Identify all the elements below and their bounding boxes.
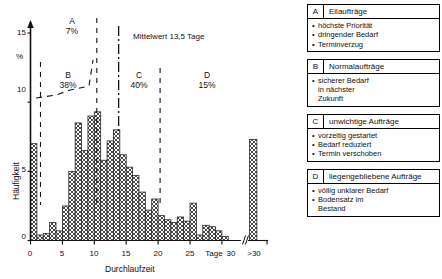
segment-d-share: 15%: [187, 80, 227, 90]
list-item: •Bedarf reduziert: [312, 140, 436, 149]
legend-box-c-key: C: [308, 115, 324, 128]
list-item: •höchste Priorität: [312, 21, 436, 30]
histogram-chart: 15 10 5 0 % Häufigkeit 0 5 10 15 20 25 T…: [0, 0, 305, 279]
y-tick-0: 0: [10, 233, 26, 241]
y-tick-15: 15: [10, 29, 26, 37]
x-tick-30: 30: [224, 250, 238, 258]
histogram-bar: [222, 236, 228, 240]
legend-box-a: A Eilaufträge •höchste Priorität •dringe…: [307, 4, 440, 52]
histogram-bar: [209, 227, 215, 241]
list-item-text: Bestand: [318, 204, 346, 213]
legend-box-d-body: •völlig unklarer Bedarf •Bodensatz im Be…: [308, 184, 439, 216]
histogram-bar: [56, 231, 62, 241]
list-item-continuation: in nächster: [312, 85, 436, 94]
histogram-bar: [37, 235, 43, 241]
histogram-bar: [69, 171, 75, 240]
list-item-text: Bedarf reduziert: [318, 140, 371, 149]
histogram-bar: [50, 223, 56, 241]
mean-value-label: Mittelwert 13,5 Tage: [133, 33, 204, 41]
histogram-bar: [171, 223, 177, 241]
list-item-text: sicherer Bedarf: [318, 76, 369, 85]
list-item-text: Termin verschoben: [318, 149, 381, 158]
histogram-bar: [139, 192, 145, 240]
list-item-continuation: Zukunft: [312, 94, 436, 103]
histogram-bar: [196, 235, 202, 241]
histogram-bar-overflow: [250, 140, 257, 241]
segment-label-c: C 40%: [119, 70, 159, 90]
histogram-bar: [101, 160, 107, 240]
segment-c-letter: C: [119, 70, 159, 80]
histogram-bar: [113, 130, 119, 241]
y-axis-title: Häufigkeit: [11, 162, 21, 200]
histogram-bar: [177, 217, 183, 241]
list-item-text: höchste Priorität: [318, 21, 372, 30]
histogram-bar: [107, 141, 113, 241]
legend-box-d-key: D: [308, 170, 324, 183]
histogram-bar: [145, 210, 151, 240]
list-item-text: Terminverzug: [318, 40, 363, 49]
legend-box-d-title: liegengebliebene Aufträge: [324, 170, 439, 183]
list-item-text: völlig unklarer Bedarf: [318, 186, 388, 195]
x-tick-overflow: >30: [243, 250, 265, 258]
list-item-text: vorzeitig gestartet: [318, 131, 377, 140]
histogram-bar: [184, 221, 190, 240]
histogram-bar: [164, 220, 170, 241]
histogram-bar: [120, 155, 126, 241]
histogram-bar: [133, 175, 139, 240]
y-unit-percent: %: [16, 52, 23, 61]
histogram-bar: [190, 203, 196, 240]
histogram-bar: [94, 112, 100, 241]
x-tick-0: 0: [24, 250, 36, 258]
segment-label-b: B 38%: [48, 70, 88, 90]
list-item-continuation: Bestand: [312, 204, 436, 213]
x-tick-10: 10: [87, 250, 101, 258]
x-tick-25: 25: [183, 250, 197, 258]
list-item: •Bodensatz im: [312, 195, 436, 204]
figure-root: 15 10 5 0 % Häufigkeit 0 5 10 15 20 25 T…: [0, 0, 442, 279]
list-item: •vorzeitig gestartet: [312, 131, 436, 140]
list-item-text: dringender Bedarf: [318, 30, 378, 39]
segment-b-letter: B: [48, 70, 88, 80]
segment-c-share: 40%: [119, 80, 159, 90]
legend-box-a-header: A Eilaufträge: [308, 5, 439, 19]
list-item: •völlig unklarer Bedarf: [312, 186, 436, 195]
legend-box-a-key: A: [308, 5, 324, 18]
histogram-bar: [126, 167, 132, 240]
segment-a-share: 7%: [52, 26, 92, 36]
legend-box-a-title: Eilaufträge: [324, 5, 439, 18]
legend-box-c-body: •vorzeitig gestartet •Bedarf reduziert •…: [308, 129, 439, 161]
segment-label-a: A 7%: [52, 16, 92, 36]
y-tick-10: 10: [10, 86, 26, 94]
legend-box-b-title: Normalaufträge: [324, 60, 439, 73]
histogram-bar: [203, 225, 209, 240]
legend-box-b: B Normalaufträge •sicherer Bedarf in näc…: [307, 59, 440, 107]
histogram-bar: [88, 116, 94, 241]
chart-canvas: [0, 0, 305, 279]
legend-box-a-body: •höchste Priorität •dringender Bedarf •T…: [308, 19, 439, 51]
legend-box-c: C unwichtige Aufträge •vorzeitig gestart…: [307, 114, 440, 162]
legend-box-c-title: unwichtige Aufträge: [324, 115, 439, 128]
legend-panel: A Eilaufträge •höchste Priorität •dringe…: [307, 4, 440, 224]
segment-d-letter: D: [187, 70, 227, 80]
histogram-bar: [62, 206, 68, 241]
segment-label-d: D 15%: [187, 70, 227, 90]
histogram-bar: [43, 234, 49, 241]
legend-box-d-header: D liegengebliebene Aufträge: [308, 170, 439, 184]
legend-box-b-key: B: [308, 60, 324, 73]
list-item: •sicherer Bedarf: [312, 76, 436, 85]
list-item: •dringender Bedarf: [312, 30, 436, 39]
histogram-bar: [216, 231, 222, 241]
list-item-text: Zukunft: [318, 94, 343, 103]
list-item-text: Bodensatz im: [318, 195, 363, 204]
histogram-bar: [82, 151, 88, 241]
legend-box-d: D liegengebliebene Aufträge •völlig unkl…: [307, 169, 440, 217]
bar-series: [31, 112, 257, 241]
x-tick-20: 20: [151, 250, 165, 258]
legend-box-b-header: B Normalaufträge: [308, 60, 439, 74]
histogram-bar: [152, 199, 158, 241]
segment-a-letter: A: [52, 16, 92, 26]
histogram-bar: [75, 123, 81, 241]
legend-box-c-header: C unwichtige Aufträge: [308, 115, 439, 129]
list-item-text: in nächster: [318, 85, 355, 94]
legend-box-b-body: •sicherer Bedarf in nächster Zukunft: [308, 74, 439, 106]
